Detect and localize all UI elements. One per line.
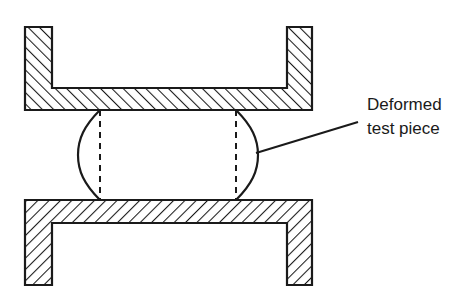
figure-root: Deformed test piece — [0, 0, 473, 295]
compression-test-diagram: Deformed test piece — [0, 0, 473, 295]
annotation-label-line-2: test piece — [367, 119, 440, 138]
test-piece-outline — [78, 110, 258, 200]
annotation-label-line-1: Deformed — [367, 95, 442, 114]
deformed-test-piece — [78, 110, 258, 200]
